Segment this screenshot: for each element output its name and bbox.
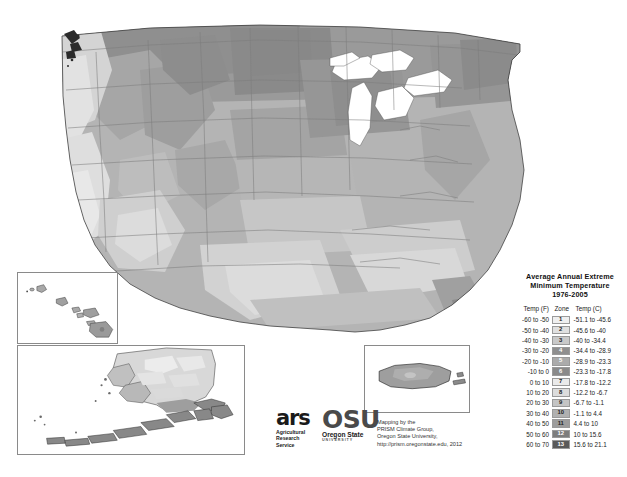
ars-line-3: Service	[276, 442, 316, 448]
alaska-islands	[34, 378, 111, 433]
legend-temp-celsius: 4.4 to 10	[570, 420, 626, 427]
legend-zone-swatch: 4	[552, 347, 570, 356]
legend-row: 10 to 208-12.2 to -6.7	[514, 387, 626, 397]
legend-temp-fahrenheit: -40 to -30	[514, 337, 552, 344]
legend-row: -20 to -105-28.9 to -23.3	[514, 356, 626, 366]
legend-temp-fahrenheit: 0 to 10	[514, 379, 552, 386]
legend-zone-swatch: 12	[552, 430, 570, 439]
legend-header-zone: Zone	[552, 305, 571, 312]
legend-row: 20 to 309-6.7 to -1.1	[514, 398, 626, 408]
legend-temp-celsius: -34.4 to -28.9	[570, 347, 626, 354]
inset-hawaii	[17, 272, 118, 344]
legend-row: 40 to 50114.4 to 10	[514, 419, 626, 429]
legend-temp-celsius: -45.6 to -40	[570, 327, 626, 334]
alaska-aleutians	[47, 399, 234, 446]
ars-agency-name: Agricultural Research Service	[276, 429, 316, 448]
legend-temp-fahrenheit: -20 to -10	[514, 358, 552, 365]
legend-zone-swatch: 1	[552, 316, 570, 325]
legend-zone-swatch: 6	[552, 367, 570, 376]
legend-zone-swatch: 13	[552, 440, 570, 449]
legend-zone-swatch: 9	[552, 399, 570, 408]
attribution-line-3: Oregon State University,	[377, 433, 462, 440]
legend-temp-celsius: 10 to 15.6	[570, 431, 626, 438]
legend-temp-celsius: -12.2 to -6.7	[570, 389, 626, 396]
legend-temp-fahrenheit: 10 to 20	[514, 389, 552, 396]
legend-temp-celsius: -23.3 to -17.8	[570, 368, 626, 375]
attribution-line-1: Mapping by the	[377, 419, 462, 426]
inset-puerto-rico	[364, 345, 470, 413]
legend-row: -50 to -402-45.6 to -40	[514, 325, 626, 335]
legend-temp-fahrenheit: -50 to -40	[514, 327, 552, 334]
legend-title: Average Annual Extreme Minimum Temperatu…	[514, 272, 626, 300]
osu-university-name: Oregon State	[322, 431, 370, 438]
alaska-map	[18, 346, 244, 454]
legend-column-headers: Temp (F) Zone Temp (C)	[514, 305, 626, 312]
legend-zone-swatch: 11	[552, 419, 570, 428]
attribution-line-2: PRISM Climate Group,	[377, 426, 462, 433]
puerto-rico-map	[365, 346, 469, 412]
legend-zone-swatch: 3	[552, 336, 570, 345]
legend-title-line-2: Minimum Temperature	[514, 281, 626, 290]
legend-temp-celsius: -28.9 to -23.3	[570, 358, 626, 365]
legend-temp-celsius: -1.1 to 4.4	[570, 410, 626, 417]
map-legend: Average Annual Extreme Minimum Temperatu…	[514, 272, 626, 450]
legend-temp-fahrenheit: -10 to 0	[514, 368, 552, 375]
ars-wordmark: ars	[276, 408, 316, 428]
legend-zone-swatch: 2	[552, 326, 570, 335]
legend-zone-swatch: 7	[552, 378, 570, 387]
legend-temp-celsius: -51.1 to -45.6	[570, 316, 626, 323]
legend-temp-celsius: -40 to -34.4	[570, 337, 626, 344]
legend-row: -10 to 06-23.3 to -17.8	[514, 367, 626, 377]
inset-alaska	[17, 345, 245, 455]
hawaii-map	[18, 273, 117, 343]
legend-title-line-3: 1976-2005	[514, 290, 626, 299]
attribution-line-4: http://prism.oregonstate.edu, 2012	[377, 441, 462, 448]
legend-header-celsius: Temp (C)	[571, 305, 626, 312]
legend-row: 30 to 4010-1.1 to 4.4	[514, 408, 626, 418]
legend-temp-celsius: 15.6 to 21.1	[570, 441, 626, 448]
mapping-attribution: Mapping by the PRISM Climate Group, Oreg…	[377, 408, 462, 448]
legend-temp-fahrenheit: 20 to 30	[514, 399, 552, 406]
legend-temp-fahrenheit: -30 to -20	[514, 347, 552, 354]
map-canvas: Average Annual Extreme Minimum Temperatu…	[0, 0, 627, 477]
credits-block: ars Agricultural Research Service OSU Or…	[276, 408, 462, 448]
legend-zone-swatch: 10	[552, 409, 570, 418]
legend-temp-fahrenheit: 40 to 50	[514, 420, 552, 427]
osu-logo: OSU Oregon State UNIVERSITY	[322, 408, 370, 443]
legend-temp-fahrenheit: 50 to 60	[514, 431, 552, 438]
legend-header-fahrenheit: Temp (F)	[514, 305, 552, 312]
legend-temp-celsius: -17.8 to -12.2	[570, 379, 626, 386]
legend-row: -60 to -501-51.1 to -45.6	[514, 315, 626, 325]
legend-zone-swatch: 8	[552, 388, 570, 397]
osu-wordmark: OSU	[322, 408, 370, 431]
legend-row: 60 to 701315.6 to 21.1	[514, 439, 626, 449]
legend-zone-swatch: 5	[552, 357, 570, 366]
legend-row: -30 to -204-34.4 to -28.9	[514, 346, 626, 356]
conus-zone-fills	[55, 20, 535, 340]
legend-temp-fahrenheit: 60 to 70	[514, 441, 552, 448]
legend-temp-fahrenheit: -60 to -50	[514, 316, 552, 323]
legend-temp-celsius: -6.7 to -1.1	[570, 399, 626, 406]
ars-logo: ars Agricultural Research Service	[276, 408, 316, 448]
legend-temp-fahrenheit: 30 to 40	[514, 410, 552, 417]
legend-title-line-1: Average Annual Extreme	[514, 272, 626, 281]
legend-row-list: -60 to -501-51.1 to -45.6-50 to -402-45.…	[514, 315, 626, 450]
legend-row: 0 to 107-17.8 to -12.2	[514, 377, 626, 387]
legend-row: -40 to -303-40 to -34.4	[514, 335, 626, 345]
osu-university-sub: UNIVERSITY	[322, 438, 370, 443]
legend-row: 50 to 601210 to 15.6	[514, 429, 626, 439]
